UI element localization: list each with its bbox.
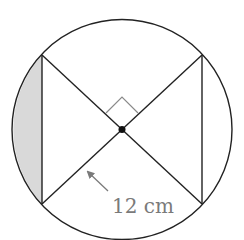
circle-diagram: 12 cm [0, 0, 244, 240]
radius-arrow [88, 172, 108, 191]
center-dot [119, 126, 126, 133]
radius-label: 12 cm [112, 194, 174, 218]
shaded-segment [13, 55, 42, 204]
right-angle-marker [106, 97, 138, 113]
